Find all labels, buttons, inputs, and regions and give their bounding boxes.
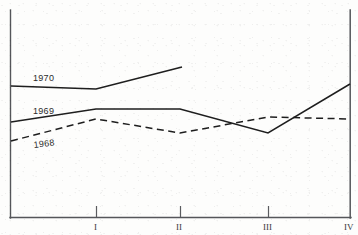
x-axis-tick-marks	[97, 206, 269, 217]
chart-canvas: 1970 1969 1968 I II III IV	[0, 0, 358, 235]
series-line-1969	[11, 84, 350, 133]
x-tick-label-q2: II	[176, 222, 182, 232]
series-line-1968	[11, 117, 350, 141]
line-chart-figure: 1970 1969 1968 I II III IV	[0, 0, 358, 235]
x-tick-label-q1: I	[94, 222, 97, 232]
x-tick-label-q4: IV	[344, 222, 354, 232]
series-label-1969: 1969	[33, 106, 54, 116]
x-tick-label-q3: III	[263, 222, 272, 232]
series-label-1968: 1968	[33, 137, 55, 150]
series-label-1970: 1970	[33, 73, 54, 83]
